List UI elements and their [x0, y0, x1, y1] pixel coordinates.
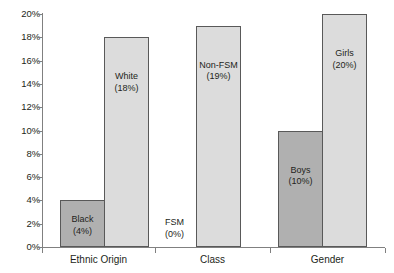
y-axis-tick-label: 6%: [0, 172, 40, 182]
y-axis-tick-label: 10%: [0, 126, 40, 136]
y-axis-tick-label: 12%: [0, 102, 40, 112]
x-axis-group-label-ethnic-origin: Ethnic Origin: [42, 253, 155, 266]
x-axis-tick-mark: [385, 248, 386, 253]
bar-girls: [322, 14, 367, 247]
y-axis-tick-label: 8%: [0, 149, 40, 159]
y-axis-tick-label: 2%: [0, 219, 40, 229]
bar-label-name: FSM: [149, 217, 201, 229]
x-axis-group-label-class: Class: [155, 253, 270, 266]
bar-label-fsm: FSM(0%): [149, 217, 201, 240]
y-axis-tick-label: 4%: [0, 195, 40, 205]
bar-label-value: (0%): [149, 229, 201, 241]
y-axis-tick-label: 16%: [0, 56, 40, 66]
bar-chart: 0%2%4%6%8%10%12%14%16%18%20% Black(4%)Wh…: [0, 0, 394, 273]
y-axis-tick-label: 14%: [0, 79, 40, 89]
bar-series: Black(4%)White(18%)FSM(0%)Non-FSM(19%)Bo…: [42, 8, 385, 247]
bar-boys: [278, 131, 323, 248]
bar-non-fsm: [196, 26, 241, 247]
bar-white: [104, 37, 149, 247]
x-axis-line: [42, 247, 385, 248]
y-axis-tick-label: 0%: [0, 242, 40, 252]
plot-area: Black(4%)White(18%)FSM(0%)Non-FSM(19%)Bo…: [42, 8, 385, 247]
bar-black: [60, 200, 105, 247]
y-axis-tick-label: 20%: [0, 9, 40, 19]
x-axis-group-label-gender: Gender: [270, 253, 385, 266]
y-axis-tick-label: 18%: [0, 32, 40, 42]
